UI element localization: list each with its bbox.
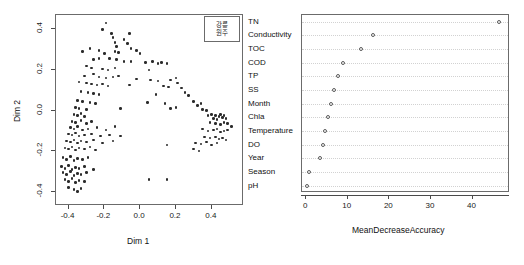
scatter-point — [90, 120, 93, 123]
scatter-point — [175, 106, 178, 109]
scatter-x-tick — [103, 205, 104, 209]
scatter-point — [76, 114, 79, 117]
dotplot-point — [329, 102, 333, 106]
scatter-point — [117, 75, 120, 78]
scatter-x-tick-label: -0.2 — [89, 211, 117, 220]
scatter-point — [69, 155, 72, 158]
scatter-point — [81, 158, 84, 161]
scatter-x-tick — [211, 205, 212, 209]
scatter-point — [212, 117, 215, 120]
scatter-point — [92, 139, 95, 142]
dotplot-gridline — [302, 186, 508, 187]
scatter-x-tick-label: 0.0 — [125, 211, 153, 220]
scatter-point — [83, 134, 86, 137]
scatter-point — [85, 171, 88, 174]
scatter-point — [76, 190, 79, 193]
scatter-point — [184, 91, 187, 94]
scatter-point — [74, 121, 77, 124]
dotplot-x-axis-line — [301, 195, 509, 196]
scatter-x-tick — [68, 205, 69, 209]
scatter-point — [98, 93, 101, 96]
scatter-y-tick — [51, 150, 55, 151]
scatter-point — [221, 137, 224, 140]
scatter-point — [73, 188, 76, 191]
scatter-y-tick — [51, 28, 55, 29]
scatter-point — [98, 57, 101, 60]
scatter-point — [81, 50, 84, 53]
dotplot-gridline — [302, 49, 508, 50]
scatter-point — [83, 180, 86, 183]
scatter-point — [200, 102, 203, 105]
dotplot-gridline — [302, 117, 508, 118]
dotplot-category-label: Season — [248, 167, 298, 176]
scatter-point — [69, 126, 72, 129]
scatter-point — [69, 170, 72, 173]
scatter-point — [73, 128, 76, 131]
dotplot-x-tick-label: 10 — [333, 201, 361, 210]
scatter-point — [73, 174, 76, 177]
scatter-point — [160, 61, 163, 64]
scatter-point — [151, 60, 154, 63]
legend-entry-2: 원주 — [216, 30, 228, 37]
scatter-x-tick-label: -0.4 — [54, 211, 82, 220]
scatter-y-tick — [51, 191, 55, 192]
scatter-point — [212, 129, 215, 132]
dotplot-category-label: SS — [248, 85, 298, 94]
scatter-point — [76, 99, 79, 102]
scatter-x-tick — [139, 205, 140, 209]
scatter-point — [67, 180, 70, 183]
scatter-point — [67, 164, 70, 167]
scatter-point — [73, 159, 76, 162]
scatter-point — [230, 125, 233, 128]
scatter-point — [119, 107, 122, 110]
legend-entry-1: 강릉 — [216, 22, 228, 29]
scatter-point — [74, 166, 77, 169]
scatter-plot-frame — [55, 14, 243, 205]
scatter-point — [90, 67, 93, 70]
scatter-point — [80, 90, 83, 93]
scatter-point — [114, 41, 117, 44]
scatter-point — [60, 165, 63, 168]
scatter-x-tick-label: 0.4 — [197, 211, 225, 220]
scatter-point — [115, 45, 118, 48]
dotplot-category-label: DO — [248, 140, 298, 149]
scatter-point — [144, 61, 147, 64]
scatter-point — [76, 125, 79, 128]
scatter-point — [83, 115, 86, 118]
scatter-point — [64, 178, 67, 181]
scatter-point — [210, 113, 213, 116]
scatter-y-tick-label: 0.0 — [35, 99, 44, 119]
dotplot-category-label: pH — [248, 181, 298, 190]
dotplot-x-tick-label: 30 — [416, 201, 444, 210]
scatter-point — [83, 165, 86, 168]
scatter-point — [119, 135, 122, 138]
dotplot-point — [332, 88, 336, 92]
scatter-point — [108, 57, 111, 60]
scatter-point — [146, 101, 149, 104]
scatter-point — [89, 101, 92, 104]
scatter-point — [85, 65, 88, 68]
dotplot-category-label: Conductivity — [248, 30, 298, 39]
scatter-point — [80, 173, 83, 176]
scatter-point — [201, 108, 204, 111]
scatter-point — [101, 28, 104, 31]
scatter-point — [101, 68, 104, 71]
scatter-point — [192, 100, 195, 103]
dotplot-x-tick-label: 40 — [458, 201, 486, 210]
figure-root: -0.4-0.20.00.20.4 -0.4-0.20.00.20.4 Dim … — [0, 0, 524, 265]
dotplot-point — [305, 184, 309, 188]
scatter-x-axis-title: Dim 1 — [127, 236, 149, 246]
dotplot-gridline — [302, 145, 508, 146]
scatter-point — [92, 168, 95, 171]
dotplot-category-label: Chla — [248, 112, 298, 121]
scatter-point — [81, 129, 84, 132]
scatter-point — [135, 49, 138, 52]
scatter-point — [205, 141, 208, 144]
scatter-point — [92, 58, 95, 61]
scatter-point — [67, 186, 70, 189]
dotplot-x-tick-label: 0 — [291, 201, 319, 210]
scatter-y-axis-title: Dim 2 — [12, 91, 22, 131]
scatter-point — [92, 73, 95, 76]
scatter-point — [126, 42, 129, 45]
scatter-point — [67, 133, 70, 136]
